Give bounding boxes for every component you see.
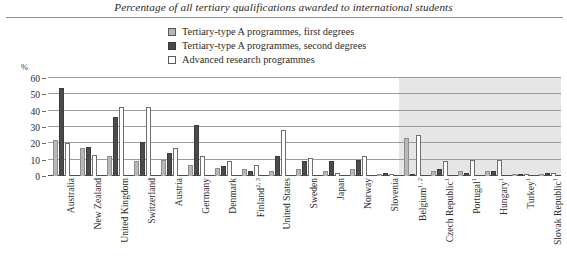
bar bbox=[119, 107, 124, 176]
x-axis-label: United Kingdom bbox=[119, 178, 130, 243]
bar bbox=[485, 171, 490, 176]
bar bbox=[86, 147, 91, 176]
bar bbox=[335, 173, 340, 176]
bar bbox=[518, 174, 523, 176]
x-axis-label: Germany bbox=[200, 178, 211, 214]
bar bbox=[437, 169, 442, 176]
chart-figure: Percentage of all tertiary qualification… bbox=[0, 0, 567, 259]
bar bbox=[242, 169, 247, 176]
y-tick-mark-50 bbox=[42, 94, 46, 95]
bar bbox=[323, 171, 328, 176]
bar bbox=[269, 171, 274, 176]
x-axis-label: Finland2, 3 bbox=[254, 178, 266, 217]
bar bbox=[65, 143, 70, 176]
legend-item-advanced-research: Advanced research programmes bbox=[168, 53, 366, 66]
y-tick-label-40: 40 bbox=[30, 105, 40, 116]
x-axis-label: Switzerland bbox=[146, 178, 157, 224]
y-tick-mark-10 bbox=[42, 160, 46, 161]
legend-label-second-degrees: Tertiary-type A programmes, second degre… bbox=[182, 40, 366, 51]
bar bbox=[524, 174, 529, 176]
legend-swatch-light-icon bbox=[168, 28, 176, 36]
y-axis: 0102030405060 bbox=[0, 78, 46, 176]
bar bbox=[167, 153, 172, 176]
bar bbox=[308, 158, 313, 176]
bar bbox=[296, 169, 301, 176]
bar bbox=[416, 135, 421, 176]
bar bbox=[539, 174, 544, 176]
y-tick-mark-20 bbox=[42, 143, 46, 144]
x-axis-label: Turkey1 bbox=[524, 178, 536, 209]
bar bbox=[470, 160, 475, 176]
bar bbox=[464, 173, 469, 176]
x-axis-label: New Zealand bbox=[92, 178, 103, 229]
bar bbox=[362, 156, 367, 176]
x-axis-label: Slovak Republic1 bbox=[551, 178, 563, 245]
y-tick-label-60: 60 bbox=[30, 73, 40, 84]
bars-layer bbox=[48, 78, 561, 176]
y-tick-label-0: 0 bbox=[35, 171, 40, 182]
bar bbox=[551, 173, 556, 176]
bar bbox=[254, 165, 259, 176]
x-axis-label: Slovenia bbox=[389, 178, 400, 212]
bar bbox=[200, 156, 205, 176]
legend-label-advanced-research: Advanced research programmes bbox=[182, 54, 315, 65]
bar bbox=[140, 142, 145, 176]
bar bbox=[458, 171, 463, 176]
x-axis-label: Belgium1, 2 bbox=[416, 178, 428, 221]
x-axis-label: Austria bbox=[173, 178, 184, 206]
bar bbox=[113, 117, 118, 176]
y-tick-label-10: 10 bbox=[30, 154, 40, 165]
x-axis-labels: AustraliaNew ZealandUnited KingdomSwitze… bbox=[48, 178, 561, 259]
chart-legend: Tertiary-type A programmes, first degree… bbox=[168, 25, 366, 67]
legend-swatch-dark-icon bbox=[168, 42, 176, 50]
legend-item-second-degrees: Tertiary-type A programmes, second degre… bbox=[168, 39, 366, 52]
x-axis-label: Czech Republic1 bbox=[443, 178, 455, 242]
bar bbox=[512, 174, 517, 176]
bar bbox=[134, 161, 139, 176]
x-axis-label: Japan bbox=[335, 178, 346, 200]
y-axis-unit-label: % bbox=[21, 62, 28, 72]
x-axis-label: United States bbox=[281, 178, 292, 229]
bar bbox=[350, 169, 355, 176]
bar bbox=[194, 125, 199, 176]
bar bbox=[173, 148, 178, 176]
x-axis-label: Hungary1 bbox=[497, 178, 509, 215]
bar bbox=[161, 160, 166, 176]
x-axis-label: Norway bbox=[362, 178, 373, 209]
bar bbox=[431, 171, 436, 176]
bar bbox=[107, 156, 112, 176]
bar bbox=[491, 171, 496, 176]
bar bbox=[53, 140, 58, 176]
bar bbox=[275, 156, 280, 176]
bar bbox=[383, 173, 388, 176]
bar bbox=[389, 174, 394, 176]
legend-swatch-white-icon bbox=[168, 56, 176, 64]
bar bbox=[188, 165, 193, 176]
y-tick-mark-30 bbox=[42, 127, 46, 128]
legend-item-first-degrees: Tertiary-type A programmes, first degree… bbox=[168, 25, 366, 38]
bar bbox=[410, 174, 415, 176]
bar bbox=[281, 130, 286, 176]
title-divider bbox=[6, 17, 563, 18]
bar bbox=[92, 155, 97, 176]
bar bbox=[443, 161, 448, 176]
bar bbox=[221, 166, 226, 176]
y-tick-label-20: 20 bbox=[30, 138, 40, 149]
y-tick-label-30: 30 bbox=[30, 122, 40, 133]
bar bbox=[497, 160, 502, 176]
y-tick-label-50: 50 bbox=[30, 89, 40, 100]
bar bbox=[302, 161, 307, 176]
bar bbox=[329, 161, 334, 176]
y-tick-mark-60 bbox=[42, 78, 46, 79]
bar bbox=[404, 138, 409, 176]
bar bbox=[215, 168, 220, 176]
x-axis-label: Sweden bbox=[308, 178, 319, 208]
x-axis-label: Portugal1 bbox=[470, 178, 482, 214]
bar bbox=[227, 161, 232, 176]
x-axis-label: Denmark bbox=[227, 178, 238, 214]
y-tick-mark-0 bbox=[42, 176, 46, 177]
bar bbox=[545, 173, 550, 176]
bar bbox=[146, 107, 151, 176]
legend-label-first-degrees: Tertiary-type A programmes, first degree… bbox=[182, 26, 354, 37]
bar bbox=[59, 88, 64, 176]
